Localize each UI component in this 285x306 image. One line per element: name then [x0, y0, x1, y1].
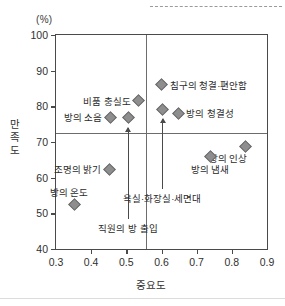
data-point-label: 침구의 청결·편안함 [170, 79, 248, 90]
x-axis-title: 중요도 [0, 277, 285, 292]
y-axis-tick-label: 40 [36, 244, 48, 255]
page-bottom-rule [0, 298, 285, 299]
data-point-label: 방의 온도 [50, 187, 89, 198]
x-axis-tick-label: 0.4 [84, 257, 99, 268]
x-axis-tick-label: 0.7 [189, 257, 204, 268]
x-axis-tick-label: 0.3 [49, 257, 64, 268]
data-point-marker [156, 103, 169, 116]
x-axis-tick-label: 0.9 [260, 257, 275, 268]
chart-page: (%) 만족도 1009080706050400.30.40.50.60.70.… [0, 0, 285, 306]
x-axis-tick-label: 0.8 [225, 257, 240, 268]
data-point-label: 비품 충실도 [83, 95, 131, 106]
y-axis-tick [51, 106, 56, 107]
annotation-label: 직원의 방 출입 [98, 223, 157, 234]
data-point-marker [68, 198, 81, 211]
y-axis-title: 만족도 [8, 118, 22, 157]
data-point-label: 방의 냄새 [191, 164, 230, 175]
x-axis-tick [162, 249, 163, 254]
top-dashed-rule [150, 6, 282, 7]
y-axis-tick [51, 249, 56, 250]
y-axis-title-char: 만 [8, 118, 22, 131]
y-axis-tick [51, 178, 56, 179]
y-axis-tick-label: 90 [36, 65, 48, 76]
data-point-marker [104, 111, 117, 124]
y-axis-title-char: 도 [8, 144, 22, 157]
x-axis-tick [91, 249, 92, 254]
plot-area: 1009080706050400.30.40.50.60.70.80.9비품 충… [55, 34, 268, 250]
x-axis-tick [126, 249, 127, 254]
data-point-marker [103, 163, 116, 176]
y-axis-tick-label: 50 [36, 208, 48, 219]
data-point-label: 방의 소음 [64, 112, 103, 123]
x-axis-tick [197, 249, 198, 254]
quadrant-divider-vertical [146, 35, 147, 249]
y-axis-tick [51, 71, 56, 72]
y-axis-tick-label: 80 [36, 101, 48, 112]
y-axis-tick [51, 213, 56, 214]
x-axis-title-text: 중요도 [136, 279, 166, 291]
y-axis-tick-label: 100 [30, 30, 48, 41]
y-axis-tick [51, 142, 56, 143]
y-axis-unit-label: (%) [36, 14, 52, 25]
y-axis-tick [51, 35, 56, 36]
annotation-arrow [128, 128, 129, 219]
y-axis-tick-label: 70 [36, 137, 48, 148]
data-point-marker [132, 95, 145, 108]
data-point-marker [239, 140, 252, 153]
data-point-label: 방의 청결성 [186, 108, 234, 119]
x-axis-tick [232, 249, 233, 254]
data-point-marker [172, 107, 185, 120]
data-point-marker [155, 79, 168, 92]
annotation-label: 욕실·화장실·세면대 [123, 193, 201, 204]
x-axis-tick-label: 0.5 [119, 257, 134, 268]
y-axis-title-char: 족 [8, 131, 22, 144]
x-axis-tick-label: 0.6 [154, 257, 169, 268]
data-point-marker [122, 111, 135, 124]
data-point-label: 조명의 밝기 [54, 164, 102, 175]
annotation-arrow [162, 119, 163, 189]
y-axis-tick-label: 60 [36, 172, 48, 183]
